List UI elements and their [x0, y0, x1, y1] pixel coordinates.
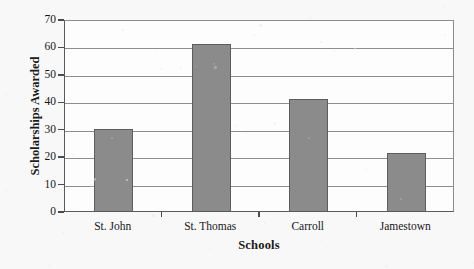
- y-axis-tick-label: 0: [16, 206, 56, 218]
- paper-speckle: [443, 5, 445, 7]
- x-axis-tick-label: Jamestown: [357, 219, 455, 233]
- x-axis-title: Schools: [64, 238, 454, 253]
- paper-speckle: [19, 146, 20, 147]
- paper-speckle: [152, 214, 155, 217]
- y-axis-tick-label: 10: [16, 179, 56, 191]
- paper-speckle: [385, 265, 388, 268]
- y-axis-tick-label-wrap: 40: [10, 96, 56, 108]
- x-axis-tick-label: St. Thomas: [162, 219, 260, 233]
- gridline: [65, 76, 453, 77]
- y-axis-tick-label: 60: [16, 41, 56, 53]
- y-axis-tick-label-wrap: 0: [10, 206, 56, 218]
- paper-speckle: [80, 257, 81, 258]
- paper-speckle: [471, 246, 472, 247]
- y-axis-tick-label-wrap: 20: [10, 151, 56, 163]
- bar: [94, 129, 133, 211]
- y-axis-tick-label-wrap: 60: [10, 41, 56, 53]
- bar-chart: Scholarships Awarded 010203040506070 St.…: [0, 0, 474, 269]
- y-axis-tick-label: 50: [16, 69, 56, 81]
- y-axis-tick-label: 70: [16, 14, 56, 26]
- x-axis-tick-label: Carroll: [259, 219, 357, 233]
- y-axis-tick-label: 20: [16, 151, 56, 163]
- y-axis-tick-label-wrap: 30: [10, 124, 56, 136]
- y-axis-tick-label-wrap: 50: [10, 69, 56, 81]
- paper-speckle: [46, 8, 48, 10]
- plot-area: [64, 20, 454, 212]
- paper-speckle: [74, 213, 76, 215]
- gridline: [65, 48, 453, 49]
- paper-speckle: [93, 263, 94, 264]
- paper-speckle: [309, 17, 311, 19]
- bar: [289, 99, 328, 212]
- paper-speckle: [5, 94, 7, 96]
- paper-speckle: [60, 96, 62, 98]
- x-axis-tick: [161, 212, 162, 217]
- x-axis-tick: [356, 212, 357, 217]
- bar: [387, 153, 426, 211]
- y-axis-tick-label: 40: [16, 96, 56, 108]
- y-axis-tick-label: 30: [16, 124, 56, 136]
- x-axis-tick: [258, 212, 259, 217]
- x-axis-tick-label: St. John: [64, 219, 162, 233]
- y-axis-tick-label-wrap: 10: [10, 179, 56, 191]
- y-axis-tick-label-wrap: 70: [10, 14, 56, 26]
- paper-speckle: [5, 189, 7, 191]
- bar: [192, 44, 231, 211]
- paper-speckle: [49, 265, 51, 267]
- gridline: [65, 103, 453, 104]
